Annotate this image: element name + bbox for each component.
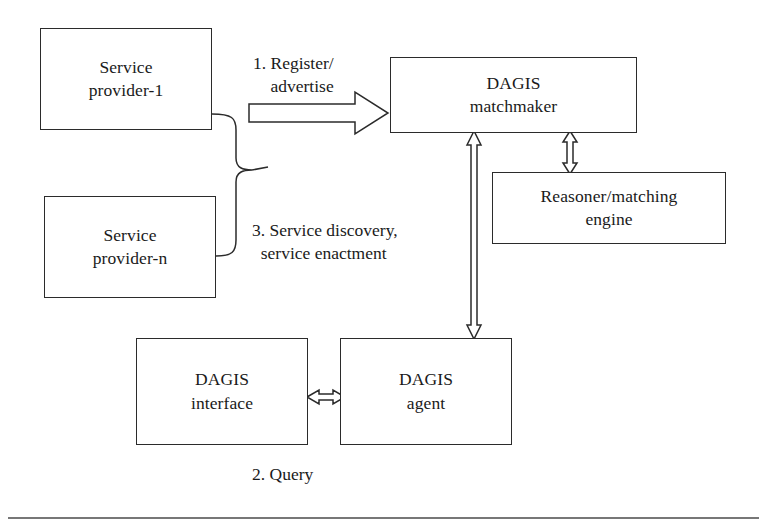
node-service-provider-n[interactable]: Service provider-n [44,196,216,298]
node-reasoner-matching-engine[interactable]: Reasoner/matching engine [492,172,726,244]
node-label-line-2: provider-n [93,247,168,270]
node-dagis-interface[interactable]: DAGIS interface [136,338,308,445]
node-label-line-1: Service [103,224,156,247]
node-label-line-2: agent [407,392,445,415]
matchmaker-reasoner-arrow-icon [563,131,577,174]
node-label-line-1: DAGIS [399,368,453,391]
node-dagis-agent[interactable]: DAGIS agent [340,338,512,445]
matchmaker-agent-arrow-icon [467,131,481,339]
node-service-provider-1[interactable]: Service provider-1 [40,28,212,130]
label-register-advertise: 1. Register/ advertise [253,52,334,99]
label-service-discovery: 3. Service discovery, service enactment [252,219,398,266]
node-label-line-1: DAGIS [487,72,541,95]
node-label-line-2: provider-1 [89,79,164,102]
node-label-line-1: Reasoner/matching [541,185,678,208]
architecture-diagram: Service provider-1 Service provider-n DA… [0,0,767,527]
node-label-line-2: interface [191,392,253,415]
node-dagis-matchmaker[interactable]: DAGIS matchmaker [390,57,637,133]
node-label-line-1: Service [99,56,152,79]
node-label-line-1: DAGIS [195,368,249,391]
label-query: 2. Query [252,463,313,486]
node-label-line-2: matchmaker [470,95,557,118]
node-label-line-2: engine [585,208,632,231]
